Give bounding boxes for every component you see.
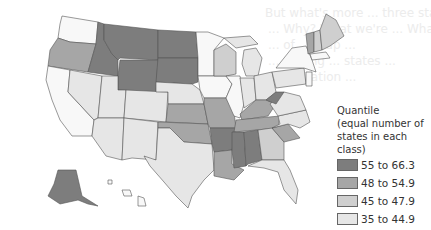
legend-item: 55 to 66.3 (337, 156, 431, 174)
state-fl (248, 160, 298, 204)
state-nj (306, 72, 312, 86)
legend-swatch (337, 177, 358, 189)
state-nm (122, 118, 158, 160)
state-ia (198, 76, 232, 98)
legend-item: 14.7 to 34.9 (337, 228, 431, 230)
legend-item: 35 to 44.9 (337, 210, 431, 228)
legend-label: 55 to 66.3 (361, 159, 415, 171)
state-ks (166, 104, 208, 124)
state-pa (272, 68, 306, 88)
legend-label: 35 to 44.9 (361, 213, 415, 225)
state-wy (118, 60, 158, 92)
legend-item: 48 to 54.9 (337, 174, 431, 192)
state-wi (214, 44, 236, 76)
legend-swatch (337, 159, 358, 171)
legend: Quantile (equal number of states in each… (337, 104, 431, 230)
legend-subtitle: states in each class) (337, 130, 431, 156)
state-sd (156, 58, 198, 84)
legend-swatch (337, 213, 358, 225)
state-hi (108, 180, 146, 206)
state-ak (48, 170, 98, 206)
state-ms (232, 132, 246, 168)
state-me (320, 14, 344, 50)
legend-item: 45 to 47.9 (337, 192, 431, 210)
legend-subtitle: (equal number of (337, 117, 431, 130)
state-co (124, 90, 168, 122)
legend-label: 48 to 54.9 (361, 177, 415, 189)
legend-title: Quantile (337, 104, 431, 117)
state-nd (158, 30, 198, 58)
legend-label: 45 to 47.9 (361, 195, 415, 207)
state-az (92, 118, 124, 160)
state-ma (310, 52, 330, 60)
legend-swatch (337, 195, 358, 207)
